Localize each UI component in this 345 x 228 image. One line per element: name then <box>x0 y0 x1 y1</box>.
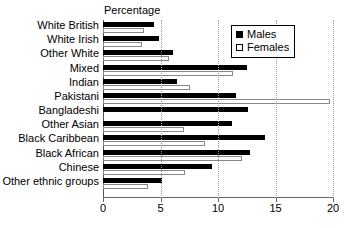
x-tick-label: 0 <box>100 202 106 214</box>
bar-females <box>103 141 205 146</box>
legend: Males Females <box>231 25 295 58</box>
category-label: White Irish <box>0 33 99 45</box>
category-label: Other Asian <box>0 118 99 130</box>
bar-males <box>103 36 159 41</box>
category-label: Other White <box>0 47 99 59</box>
x-tick-label: 20 <box>327 202 339 214</box>
legend-label-males: Males <box>247 28 276 41</box>
legend-swatch-males-icon <box>236 31 243 38</box>
category-label: Black Caribbean <box>0 132 99 144</box>
gridline <box>218 20 219 198</box>
bar-females <box>103 170 185 175</box>
bar-males <box>103 93 236 98</box>
bar-males <box>103 79 177 84</box>
chart-title: Percentage <box>104 4 160 16</box>
bar-males <box>103 150 250 155</box>
plot-area <box>103 20 333 198</box>
bar-females <box>103 56 169 61</box>
gridline <box>333 20 334 198</box>
category-label: Chinese <box>0 161 99 173</box>
category-label: White British <box>0 19 99 31</box>
gridline <box>161 20 162 198</box>
legend-item-females: Females <box>236 41 289 54</box>
x-tick-label: 5 <box>157 202 163 214</box>
category-label: Bangladeshi <box>0 104 99 116</box>
bar-females <box>103 71 233 76</box>
bar-males <box>103 178 162 183</box>
legend-item-males: Males <box>236 28 289 41</box>
x-tick-label: 10 <box>212 202 224 214</box>
category-label: Indian <box>0 76 99 88</box>
bar-females <box>103 42 142 47</box>
category-label: Other ethnic groups <box>0 175 99 187</box>
x-tick-label: 15 <box>269 202 281 214</box>
bar-males <box>103 107 248 112</box>
category-label: Mixed <box>0 62 99 74</box>
category-label: Black African <box>0 147 99 159</box>
bar-females <box>103 99 330 104</box>
bar-males <box>103 135 265 140</box>
bar-females <box>103 85 190 90</box>
legend-swatch-females-icon <box>236 44 243 51</box>
bar-males <box>103 65 247 70</box>
bar-males <box>103 121 232 126</box>
bar-females <box>103 28 144 33</box>
bar-males <box>103 22 154 27</box>
bar-females <box>103 127 184 132</box>
bar-females <box>103 184 148 189</box>
bar-chart: Percentage White BritishWhite IrishOther… <box>0 0 345 228</box>
bar-females <box>103 156 242 161</box>
bar-males <box>103 164 212 169</box>
bar-males <box>103 50 173 55</box>
category-label: Pakistani <box>0 90 99 102</box>
legend-label-females: Females <box>247 41 289 54</box>
